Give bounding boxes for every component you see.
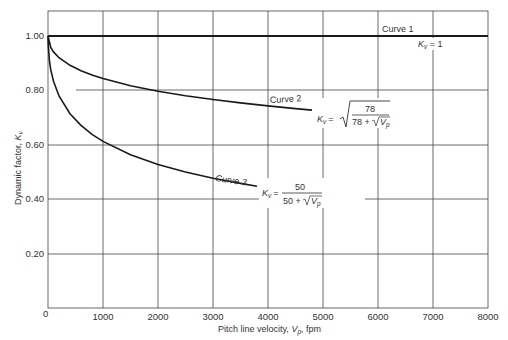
curve-3-line [48,36,257,186]
svg-text:2000: 2000 [147,311,168,322]
svg-text:3000: 3000 [202,311,223,322]
vertical-gridlines [103,11,433,308]
svg-text:78 +: 78 + [352,117,370,127]
x-axis-ticks: 1000 2000 3000 4000 5000 6000 7000 8000 [92,311,498,322]
svg-text:4000: 4000 [257,311,278,322]
origin-label: 0 [43,308,48,319]
x-axis-label: Pitch line velocity, Vp, fpm [218,324,321,336]
y-axis-ticks: 0.20 0.40 0.60 0.80 1.00 [26,30,45,259]
curve-1-label: Curve 1 [382,24,414,34]
svg-text:0.80: 0.80 [26,84,45,95]
svg-text:50 +: 50 + [283,196,301,206]
svg-text:0.60: 0.60 [26,139,45,150]
svg-text:6000: 6000 [367,311,388,322]
svg-text:0.40: 0.40 [26,193,45,204]
svg-text:78: 78 [365,104,375,114]
dynamic-factor-chart: Curve 1 Kv = 1 Curve 2 Kv= 78 78 + Vp Cu… [0,0,508,340]
svg-text:5000: 5000 [312,311,333,322]
curve-1-equation: Kv = 1 [418,39,443,50]
svg-text:50: 50 [295,182,305,192]
y-axis-label: Dynamic factor, Kv [13,130,24,205]
curve-2-label: Curve 2 [270,93,302,105]
svg-text:8000: 8000 [477,311,498,322]
svg-text:0.20: 0.20 [26,248,45,259]
curve-3-label: Curve 3 [215,173,248,187]
svg-text:1000: 1000 [92,311,113,322]
svg-text:1.00: 1.00 [26,30,45,41]
svg-text:7000: 7000 [422,311,443,322]
